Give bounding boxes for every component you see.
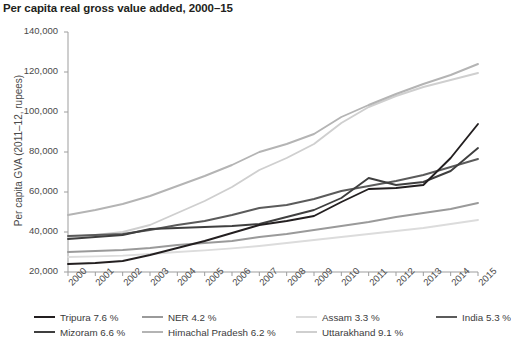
y-tick-label: 120,000 <box>4 65 58 76</box>
legend-line-swatch <box>142 316 163 318</box>
y-tick-label: 20,000 <box>4 265 58 276</box>
chart-legend: Tripura 7.6 %NER 4.2 %Assam 3.3 %India 5… <box>34 310 483 342</box>
legend-item-label: Assam 3.3 % <box>322 312 380 323</box>
y-tick-label: 140,000 <box>4 25 58 36</box>
legend-item-india[interactable]: India 5.3 % <box>436 310 511 324</box>
series-line-himachal-pradesh <box>68 64 478 215</box>
y-tick-label: 100,000 <box>4 105 58 116</box>
series-line-india <box>68 159 478 236</box>
series-line-mizoram <box>68 148 478 239</box>
legend-line-swatch <box>34 316 55 318</box>
legend-item-mizoram[interactable]: Mizoram 6.6 % <box>34 325 125 339</box>
legend-item-label: Uttarakhand 9.1 % <box>322 327 403 338</box>
legend-item-label: India 5.3 % <box>462 312 511 323</box>
legend-item-label: Himachal Pradesh 6.2 % <box>168 327 276 338</box>
legend-line-swatch <box>142 331 163 333</box>
legend-item-uttarakhand[interactable]: Uttarakhand 9.1 % <box>296 325 403 339</box>
legend-line-swatch <box>34 331 55 333</box>
legend-item-label: Mizoram 6.6 % <box>60 327 125 338</box>
series-line-assam <box>68 220 478 257</box>
legend-item-himachal[interactable]: Himachal Pradesh 6.2 % <box>142 325 276 339</box>
y-tick-label: 40,000 <box>4 225 58 236</box>
series-line-uttarakhand <box>68 73 478 237</box>
legend-line-swatch <box>436 316 457 318</box>
series-line-tripura <box>68 124 478 264</box>
legend-item-tripura[interactable]: Tripura 7.6 % <box>34 310 118 324</box>
legend-line-swatch <box>296 331 317 333</box>
legend-item-assam[interactable]: Assam 3.3 % <box>296 310 380 324</box>
y-tick-label: 60,000 <box>4 185 58 196</box>
legend-item-ner[interactable]: NER 4.2 % <box>142 310 216 324</box>
legend-item-label: Tripura 7.6 % <box>60 312 118 323</box>
legend-row-1: Tripura 7.6 %NER 4.2 %Assam 3.3 %India 5… <box>34 310 483 324</box>
legend-item-label: NER 4.2 % <box>168 312 216 323</box>
legend-row-2: Mizoram 6.6 %Himachal Pradesh 6.2 %Uttar… <box>34 325 483 339</box>
y-tick-label: 80,000 <box>4 145 58 156</box>
legend-line-swatch <box>296 316 317 318</box>
